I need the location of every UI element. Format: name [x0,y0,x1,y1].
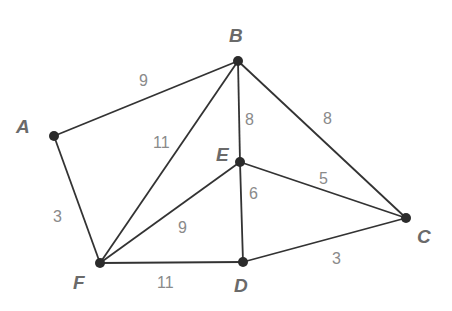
edge-f-d [100,262,243,263]
node-f-dot [95,258,105,268]
edge-weight-d-c: 3 [332,250,341,267]
node-b-dot [233,56,243,66]
edge-b-c [238,61,406,218]
node-d-label: D [234,275,248,296]
edge-e-d [240,162,243,262]
node-a-dot [49,131,59,141]
node-e-label: E [216,144,230,165]
node-f-label: F [73,272,86,293]
node-d-dot [238,257,248,267]
edge-weight-a-b: 9 [139,72,148,89]
nodes [49,56,411,268]
edges [54,61,406,263]
edge-weight-e-c: 5 [319,170,328,187]
edge-weight-f-e: 9 [178,219,187,236]
edge-d-c [243,218,406,262]
node-labels: ABCDEF [15,25,431,296]
edge-f-e [100,162,240,263]
node-b-label: B [229,25,243,46]
edge-a-f [54,136,100,263]
node-a-label: A [15,116,30,137]
edge-weight-e-d: 6 [249,185,258,202]
node-c-label: C [417,226,431,247]
edge-weight-f-b: 11 [153,134,170,151]
edge-b-e [238,61,240,162]
weighted-graph-diagram: 931188569113 ABCDEF [0,0,452,311]
edge-weight-a-f: 3 [53,208,62,225]
edge-weight-b-c: 8 [323,110,332,127]
edge-weight-f-d: 11 [157,274,174,291]
edge-weight-b-e: 8 [245,111,254,128]
node-c-dot [401,213,411,223]
node-e-dot [235,157,245,167]
